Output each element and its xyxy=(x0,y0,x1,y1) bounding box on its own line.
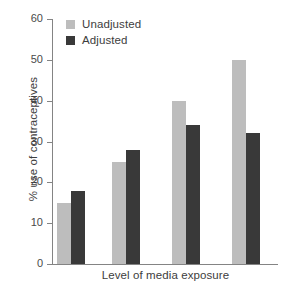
legend-item-unadjusted: Unadjusted xyxy=(66,17,141,31)
y-axis-tick xyxy=(47,182,52,183)
y-axis-tick-label: 60 xyxy=(7,13,43,24)
bar-adjusted-group-3 xyxy=(186,125,200,264)
x-axis-line xyxy=(52,264,278,265)
bar-adjusted-group-2 xyxy=(126,150,140,264)
bar-unadjusted-group-4 xyxy=(232,60,246,264)
legend-label-unadjusted: Unadjusted xyxy=(82,18,141,30)
bar-chart: % use of contraceptives 0102030405060 Un… xyxy=(0,0,291,294)
legend-item-adjusted: Adjusted xyxy=(66,33,141,47)
chart-legend: Unadjusted Adjusted xyxy=(66,17,141,49)
legend-swatch-adjusted-icon xyxy=(66,36,75,45)
y-axis-tick-label: 40 xyxy=(7,95,43,106)
y-axis-line xyxy=(52,19,53,265)
y-axis-tick-label: 20 xyxy=(7,176,43,187)
y-axis-tick-label: 10 xyxy=(7,217,43,228)
y-axis-tick xyxy=(47,223,52,224)
legend-label-adjusted: Adjusted xyxy=(82,34,128,46)
y-axis-tick xyxy=(47,142,52,143)
bar-adjusted-group-4 xyxy=(246,133,260,264)
bar-unadjusted-group-3 xyxy=(172,101,186,264)
bar-unadjusted-group-1 xyxy=(57,203,71,264)
legend-swatch-unadjusted-icon xyxy=(66,20,75,29)
y-axis-tick xyxy=(47,101,52,102)
y-axis-tick-label: 50 xyxy=(7,54,43,65)
y-axis-tick xyxy=(47,60,52,61)
y-axis-tick-label: 30 xyxy=(7,136,43,147)
y-axis-tick xyxy=(47,264,52,265)
y-axis-tick xyxy=(47,19,52,20)
y-axis-tick-label: 0 xyxy=(7,258,43,269)
x-axis-label: Level of media exposure xyxy=(53,269,278,281)
bar-adjusted-group-1 xyxy=(71,191,85,265)
bar-unadjusted-group-2 xyxy=(112,162,126,264)
